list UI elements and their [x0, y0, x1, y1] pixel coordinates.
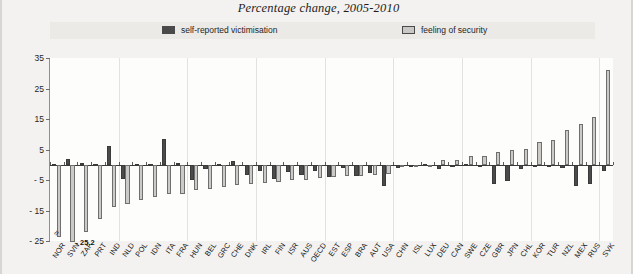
x-axis-label-chl: CHL — [518, 241, 534, 259]
x-axis-label-irl: IRL — [259, 241, 273, 256]
bar-rus-victimisation — [588, 165, 592, 185]
x-axis-tick — [146, 162, 147, 165]
x-axis-label-fin: FIN — [273, 241, 287, 256]
x-axis-tick — [215, 162, 216, 165]
vertical-gridline — [325, 58, 326, 241]
x-axis-label-deu: DEU — [435, 241, 451, 259]
x-axis-tick — [586, 162, 587, 165]
bar-can-security — [455, 160, 459, 165]
vertical-gridline — [256, 58, 257, 241]
bar-est-security — [331, 165, 335, 177]
x-axis-tick — [613, 162, 614, 165]
bar-chn-security — [400, 165, 404, 168]
bar-usa-security — [386, 165, 390, 174]
bar-irl-security — [263, 165, 267, 183]
bar-cze-victimisation — [478, 165, 482, 167]
x-axis-tick — [517, 162, 518, 165]
bar-grc-security — [222, 165, 226, 188]
x-axis-tick — [366, 162, 367, 165]
x-axis-label-swe: SWE — [462, 241, 479, 260]
x-axis-tick — [434, 162, 435, 165]
page-title: Percentage change, 2005-2010 — [2, 1, 633, 16]
x-axis-label-pol: POL — [134, 241, 150, 259]
x-axis-tick — [119, 162, 120, 165]
x-axis-tick — [393, 162, 394, 165]
x-axis-tick — [187, 162, 188, 165]
x-axis-tick — [201, 162, 202, 165]
y-axis-tick — [46, 58, 50, 59]
bar-dnk-security — [249, 165, 253, 184]
x-axis-tick — [283, 162, 284, 165]
y-axis-tick-label: 15 — [14, 114, 44, 124]
x-axis-tick — [256, 162, 257, 165]
x-axis-tick — [476, 162, 477, 165]
x-axis-tick — [352, 162, 353, 165]
bar-hun-security — [194, 165, 198, 191]
bar-mex-security — [579, 124, 583, 165]
x-axis-tick — [132, 162, 133, 165]
x-axis-label-nzl: NZL — [560, 241, 576, 258]
bar-tur-victimisation — [547, 165, 551, 168]
bar-rus-security — [592, 117, 596, 165]
x-axis-tick — [462, 162, 463, 165]
x-axis-label-dnk: DNK — [243, 241, 259, 259]
bar-ita-security — [167, 165, 171, 194]
y-axis-tick — [46, 119, 50, 120]
bar-tur-security — [551, 140, 555, 165]
bar-nor-security — [57, 165, 61, 237]
vertical-gridline — [531, 58, 532, 241]
x-axis-tick — [325, 162, 326, 165]
x-axis-label-jpn: JPN — [505, 241, 521, 258]
x-axis-tick — [64, 162, 65, 165]
x-axis-label-grc: GRC — [215, 241, 232, 260]
bar-nzl-security — [565, 130, 569, 164]
x-axis-tick — [242, 162, 243, 165]
x-axis-label-ind: IND — [107, 241, 122, 257]
x-axis-tick — [77, 162, 78, 165]
bar-kor-security — [537, 142, 541, 165]
vertical-gridline — [187, 58, 188, 241]
x-axis-label-hun: HUN — [188, 241, 205, 260]
y-axis-tick — [46, 180, 50, 181]
x-axis-tick — [311, 162, 312, 165]
x-axis-label-nld: NLD — [120, 241, 136, 259]
y-axis-tick-label: 5 — [14, 145, 44, 155]
x-axis-label-nor: NOR — [50, 241, 67, 260]
x-axis-tick — [407, 162, 408, 165]
vertical-gridline — [393, 58, 394, 241]
x-axis-tick — [229, 162, 230, 165]
x-axis-tick — [297, 162, 298, 165]
x-axis-label-est: EST — [326, 241, 342, 258]
legend-swatch-icon-light — [402, 26, 415, 34]
bar-gbr-security — [496, 152, 500, 165]
bar-svk-security — [606, 70, 610, 165]
x-axis-tick — [91, 162, 92, 165]
y-axis-tick-label: 25 — [14, 84, 44, 94]
x-axis-label-lux: LUX — [422, 241, 438, 258]
y-axis-tick — [46, 89, 50, 90]
x-axis-tick — [421, 162, 422, 165]
x-axis-label-bra: BRA — [353, 241, 369, 259]
bar-fin-security — [276, 165, 280, 182]
legend-item-self-reported-victimisation: self-reported victimisation — [162, 25, 277, 35]
x-axis-tick — [489, 162, 490, 165]
y-axis-tick-label: - 25 — [14, 236, 44, 246]
plot-area — [49, 58, 613, 241]
bar-kor-victimisation — [533, 165, 537, 167]
x-axis-tick — [531, 162, 532, 165]
bar-svk-victimisation — [602, 165, 606, 171]
bar-ind-security — [112, 165, 116, 207]
x-axis-tick — [544, 162, 545, 165]
bar-deu-security — [441, 160, 445, 164]
x-axis-label-mex: MEX — [572, 241, 589, 260]
x-axis-tick — [558, 162, 559, 165]
x-axis-labels: NORSVNZAFPRTINDNLDPOLIDNITAFRAHUNBELGRCC… — [49, 241, 612, 274]
bar-ind-victimisation — [107, 146, 111, 165]
x-axis-label-idn: IDN — [149, 241, 164, 257]
chart-figure: Percentage change, 2005-2010 self-report… — [0, 0, 633, 274]
bar-deu-victimisation — [437, 165, 441, 169]
bar-zaf-security — [84, 165, 88, 232]
x-axis-tick — [174, 162, 175, 165]
x-axis-label-chn: CHN — [394, 241, 411, 260]
annotation-value-svn: - 25.2 — [76, 238, 95, 247]
